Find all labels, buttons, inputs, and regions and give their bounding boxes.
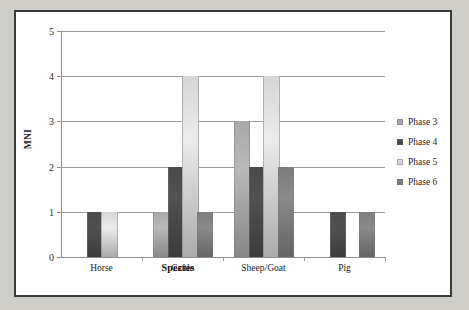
legend-swatch-icon: [397, 139, 403, 145]
x-axis-title: Species: [161, 262, 194, 273]
x-label-horse: Horse: [90, 263, 113, 273]
y-tick-4: [57, 76, 61, 77]
chart-frame: MNI 012345 HorseCattleSheep/GoatPig Spec…: [14, 10, 452, 297]
x-tick: [385, 257, 386, 261]
legend-label: Phase 6: [408, 177, 437, 187]
x-tick: [304, 257, 305, 261]
x-label-pig: Pig: [338, 263, 351, 273]
x-label-sheep-goat: Sheep/Goat: [241, 263, 285, 273]
y-tick-3: [57, 121, 61, 122]
y-tick-label-3: 3: [49, 116, 54, 127]
legend-item-phase-5[interactable]: Phase 5: [397, 152, 437, 172]
y-tick-2: [57, 167, 61, 168]
bar-chart: MNI 012345 HorseCattleSheep/GoatPig Spec…: [16, 12, 450, 295]
bar-group: [153, 31, 211, 257]
y-tick-0: [57, 257, 61, 258]
y-tick-label-4: 4: [49, 71, 54, 82]
y-tick-5: [57, 31, 61, 32]
y-tick-label-5: 5: [49, 26, 54, 37]
y-axis-line: [61, 31, 62, 257]
bar-sheep-goat-phase-6[interactable]: [278, 167, 294, 257]
chart-legend: Phase 3Phase 4Phase 5Phase 6: [397, 112, 437, 192]
y-tick-label-1: 1: [49, 206, 54, 217]
x-tick: [142, 257, 143, 261]
legend-label: Phase 5: [408, 157, 437, 167]
legend-label: Phase 4: [408, 137, 437, 147]
bar-cattle-phase-6[interactable]: [197, 212, 213, 257]
x-tick: [223, 257, 224, 261]
bar-pig-phase-4[interactable]: [330, 212, 346, 257]
bar-group: [234, 31, 292, 257]
legend-swatch-icon: [397, 119, 403, 125]
y-tick-1: [57, 212, 61, 213]
plot-area: 012345 HorseCattleSheep/GoatPig: [61, 31, 385, 257]
y-axis-title: MNI: [23, 129, 33, 149]
bar-group: [315, 31, 373, 257]
legend-swatch-icon: [397, 159, 403, 165]
legend-item-phase-6[interactable]: Phase 6: [397, 172, 437, 192]
bar-group: [72, 31, 130, 257]
y-tick-label-0: 0: [49, 252, 54, 263]
legend-item-phase-3[interactable]: Phase 3: [397, 112, 437, 132]
legend-item-phase-4[interactable]: Phase 4: [397, 132, 437, 152]
bar-horse-phase-5[interactable]: [101, 212, 117, 257]
y-tick-label-2: 2: [49, 161, 54, 172]
legend-swatch-icon: [397, 179, 403, 185]
legend-label: Phase 3: [408, 117, 437, 127]
bar-pig-phase-6[interactable]: [359, 212, 375, 257]
